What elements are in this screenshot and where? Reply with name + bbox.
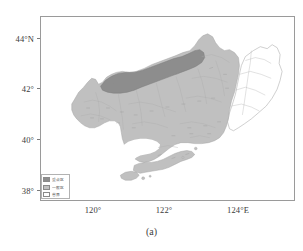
legend-swatch-general-zone [43,185,50,190]
legend-swatch-province-border [43,192,50,197]
legend-item-general-zone: 一般区 [43,184,68,191]
y-tick-label-44: 44°N [2,34,34,44]
map-legend: 重点区 一般区 省界 [41,174,70,199]
legend-item-key-zone: 重点区 [43,176,68,183]
map-figure: 44°N 42° 40° 38° 120° 122° 124°E [0,0,303,251]
x-tick-label-124: 124°E [214,205,262,215]
map-plot-area [40,16,295,201]
y-tick-label-38: 38° [2,186,34,196]
legend-label-province-border: 省界 [52,192,60,197]
figure-caption: (a) [0,226,303,237]
map-region-light [72,34,240,180]
y-tick-label-40: 40° [2,135,34,145]
x-tick-label-120: 120° [73,205,113,215]
x-tick-label-122: 122° [144,205,184,215]
map-svg [41,17,294,200]
legend-label-general-zone: 一般区 [52,185,63,190]
legend-swatch-key-zone [43,177,50,182]
y-tick-label-42: 42° [2,84,34,94]
legend-item-province-border: 省界 [43,191,68,198]
legend-label-key-zone: 重点区 [52,177,63,182]
